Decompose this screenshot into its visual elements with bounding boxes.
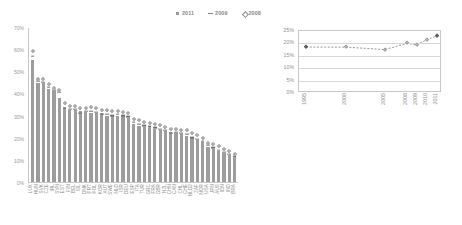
inset-y-tick-label: 10% bbox=[284, 64, 294, 70]
bar-2011 bbox=[74, 110, 77, 182]
bar-2011 bbox=[31, 60, 34, 182]
chart-legend: 2011 2009 2008 bbox=[175, 7, 320, 19]
marker-2008 bbox=[100, 108, 104, 112]
marker-2009 bbox=[169, 133, 173, 134]
marker-2009 bbox=[195, 138, 199, 139]
marker-2009 bbox=[73, 108, 77, 109]
marker-2009 bbox=[68, 108, 72, 109]
inset-x-tick-label: 2005 bbox=[381, 93, 386, 105]
marker-2008 bbox=[227, 149, 231, 153]
bar-2011 bbox=[206, 147, 209, 182]
marker-2008 bbox=[115, 109, 119, 113]
marker-2008 bbox=[41, 77, 45, 81]
marker-2008 bbox=[195, 133, 199, 137]
marker-2008 bbox=[110, 109, 114, 113]
marker-2008 bbox=[89, 105, 93, 109]
inset-chart-y-axis: 0%5%10%15%20%25% bbox=[266, 30, 296, 92]
main-y-tick-label: 10% bbox=[14, 158, 24, 164]
inset-y-tick-label: 20% bbox=[284, 39, 294, 45]
bar-2011 bbox=[84, 112, 87, 182]
main-x-tick-label: BRA bbox=[232, 184, 237, 194]
main-chart-bars bbox=[29, 28, 238, 182]
marker-2009 bbox=[142, 125, 146, 126]
legend-marker-dash-icon bbox=[208, 11, 213, 16]
marker-2009 bbox=[105, 114, 109, 115]
marker-2009 bbox=[180, 133, 184, 134]
main-chart-column bbox=[232, 28, 237, 182]
bar-2011 bbox=[111, 116, 114, 182]
bar-2011 bbox=[42, 83, 45, 182]
marker-2009 bbox=[132, 122, 136, 123]
inset-x-tick-label: 2009 bbox=[413, 93, 418, 105]
marker-2008 bbox=[84, 106, 88, 110]
bar-2011 bbox=[222, 153, 225, 182]
marker-2008 bbox=[200, 136, 204, 140]
inset-x-tick-label: 2010 bbox=[423, 93, 428, 105]
bar-2011 bbox=[105, 116, 108, 182]
bar-2011 bbox=[116, 116, 119, 182]
bar-2011 bbox=[201, 142, 204, 182]
bar-2011 bbox=[196, 140, 199, 182]
marker-2009 bbox=[137, 124, 141, 125]
marker-2009 bbox=[227, 154, 231, 155]
bar-2011 bbox=[79, 111, 82, 182]
inset-x-tick-label: 2008 bbox=[403, 93, 408, 105]
inset-y-tick-label: 5% bbox=[287, 77, 295, 83]
main-x-tick-cell: BRA bbox=[231, 184, 236, 224]
marker-2008 bbox=[30, 49, 34, 53]
bar-2011 bbox=[174, 133, 177, 182]
marker-2008 bbox=[131, 117, 135, 121]
main-y-tick-label: 40% bbox=[14, 91, 24, 97]
bar-2011 bbox=[127, 118, 130, 182]
inset-y-tick-label: 0% bbox=[287, 89, 295, 95]
marker-2009 bbox=[41, 82, 45, 83]
bar-2011 bbox=[217, 151, 220, 182]
inset-chart-x-axis: 1995200020052008200920102011 bbox=[298, 93, 441, 125]
marker-2008 bbox=[169, 127, 173, 131]
marker-2008 bbox=[174, 127, 178, 131]
marker-2009 bbox=[222, 151, 226, 152]
marker-2008 bbox=[216, 144, 220, 148]
bar-2011 bbox=[63, 107, 66, 182]
bar-2011 bbox=[164, 131, 167, 182]
bar-2011 bbox=[233, 158, 236, 182]
bar-2011 bbox=[180, 134, 183, 182]
bar-2011 bbox=[36, 83, 39, 182]
marker-2009 bbox=[174, 132, 178, 133]
marker-2009 bbox=[31, 55, 35, 56]
marker-2009 bbox=[153, 127, 157, 128]
inset-x-tick-label: 1995 bbox=[302, 93, 307, 105]
bar-2011 bbox=[185, 136, 188, 183]
main-bar-chart: 0%10%20%30%40%50%60%70% LUXHUNSVKCZEIRLS… bbox=[0, 22, 250, 225]
marker-2009 bbox=[164, 129, 168, 130]
marker-2008 bbox=[142, 120, 146, 124]
marker-2008 bbox=[211, 142, 215, 146]
bar-2011 bbox=[228, 155, 231, 182]
main-y-tick-label: 70% bbox=[14, 25, 24, 31]
main-y-tick-label: 0% bbox=[17, 180, 24, 186]
marker-2009 bbox=[158, 128, 162, 129]
marker-2008 bbox=[105, 108, 109, 112]
marker-2008 bbox=[153, 122, 157, 126]
marker-2009 bbox=[63, 107, 67, 108]
marker-2009 bbox=[116, 114, 120, 115]
bar-2011 bbox=[137, 126, 140, 182]
main-y-tick-label: 60% bbox=[14, 47, 24, 53]
bar-2011 bbox=[95, 113, 98, 182]
bar-2011 bbox=[148, 128, 151, 182]
marker-2008 bbox=[163, 124, 167, 128]
legend-entry-2009: 2009 bbox=[208, 10, 227, 16]
marker-2009 bbox=[110, 115, 114, 116]
legend-label-2008: 2008 bbox=[249, 10, 261, 16]
inset-x-tick-label: 2011 bbox=[433, 93, 438, 105]
legend-entry-2008: 2008 bbox=[242, 10, 261, 16]
bar-2011 bbox=[52, 91, 55, 182]
marker-2009 bbox=[126, 116, 130, 117]
legend-marker-square-icon bbox=[175, 11, 180, 16]
bar-2011 bbox=[212, 149, 215, 182]
legend-label-2009: 2009 bbox=[215, 10, 227, 16]
inset-line-chart: 0%5%10%15%20%25% 19952000200520082009201… bbox=[266, 26, 456, 126]
marker-2009 bbox=[185, 134, 189, 135]
main-chart-x-axis: LUXHUNSVKCZEIRLSVNESTFINBELISLDNKPRTPOLK… bbox=[28, 184, 238, 224]
marker-2009 bbox=[217, 149, 221, 150]
